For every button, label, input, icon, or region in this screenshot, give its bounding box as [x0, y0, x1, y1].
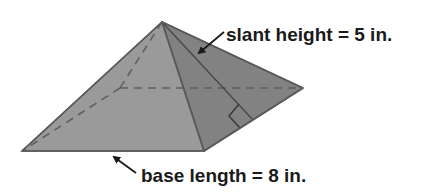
slant-height-label: slant height = 5 in. [226, 24, 392, 45]
base-length-label: base length = 8 in. [141, 165, 306, 186]
pyramid-diagram: slant height = 5 in. base length = 8 in. [0, 0, 434, 195]
base-length-arrow [114, 157, 136, 173]
